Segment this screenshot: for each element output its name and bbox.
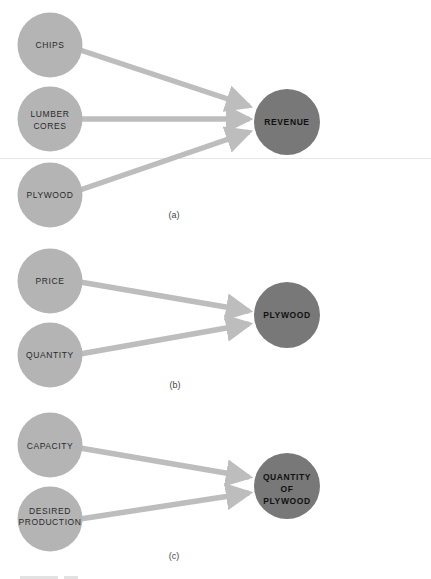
node-label: PLYWOOD — [263, 310, 310, 320]
node-label: PRICE — [36, 276, 65, 286]
node-price: PRICE — [18, 249, 83, 314]
node-label: PLYWOOD — [263, 496, 310, 506]
arrow-chips-to-revenue — [80, 50, 249, 106]
node-label: CORES — [33, 121, 66, 131]
node-quantity: QUANTITY — [18, 323, 83, 388]
node-capacity: CAPACITY — [18, 413, 83, 478]
arrow-quantity-to-plywood — [80, 324, 249, 354]
arrows-a — [80, 50, 249, 190]
arrows-b — [80, 282, 249, 354]
node-label: REVENUE — [264, 117, 309, 127]
node-label: DESIRED — [29, 506, 71, 516]
node-plywood-input: PLYWOOD — [18, 163, 83, 228]
arrow-capacity-to-quantity — [80, 448, 249, 477]
caption-a: (a) — [169, 210, 180, 220]
influence-diagrams: CHIPS LUMBER CORES PLYWOOD REVENUE (a) P… — [0, 0, 431, 579]
arrow-desired-production-to-quantity — [80, 493, 249, 519]
node-label: PLYWOOD — [26, 190, 73, 200]
node-label: PRODUCTION — [18, 517, 81, 527]
caption-c: (c) — [169, 551, 180, 561]
diagram-c: CAPACITY DESIRED PRODUCTION QUANTITY OF … — [18, 413, 321, 562]
node-lumber-cores: LUMBER CORES — [18, 87, 83, 152]
diagram-b: PRICE QUANTITY PLYWOOD (b) — [18, 249, 321, 391]
diagram-a: CHIPS LUMBER CORES PLYWOOD REVENUE (a) — [18, 13, 321, 228]
node-label: CHIPS — [36, 40, 65, 50]
arrow-plywood-to-revenue — [80, 132, 249, 190]
node-quantity-of-plywood-result: QUANTITY OF PLYWOOD — [254, 453, 320, 519]
arrows-c — [80, 448, 249, 519]
node-label: OF — [280, 484, 293, 494]
node-label: QUANTITY — [263, 472, 311, 482]
caption-b: (b) — [170, 380, 181, 390]
node-desired-production: DESIRED PRODUCTION — [18, 487, 83, 552]
node-revenue-result: REVENUE — [254, 89, 320, 155]
node-label: CAPACITY — [27, 441, 74, 451]
node-plywood-result: PLYWOOD — [254, 282, 320, 348]
node-label: LUMBER — [30, 109, 69, 119]
arrow-price-to-plywood — [80, 282, 249, 311]
node-chips: CHIPS — [18, 13, 83, 78]
node-label: QUANTITY — [26, 350, 74, 360]
